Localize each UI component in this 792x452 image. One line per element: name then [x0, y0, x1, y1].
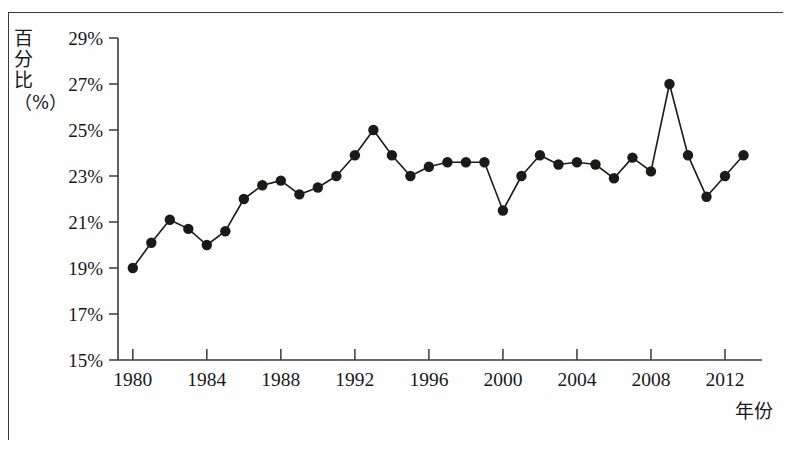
y-tick-label: 23% — [68, 166, 103, 187]
y-tick-label: 19% — [68, 258, 103, 279]
x-tick-label: 2012 — [705, 369, 744, 390]
y-tick-label: 29% — [68, 28, 103, 49]
data-point-marker — [313, 182, 323, 192]
x-axis-tick-labels: 198019841988199219962000200420082012 — [113, 369, 744, 390]
data-point-marker — [535, 150, 545, 160]
data-point-marker — [165, 215, 175, 225]
y-tick-label: 17% — [68, 304, 103, 325]
y-tick-label: 21% — [68, 212, 103, 233]
data-point-marker — [331, 171, 341, 181]
data-series-group — [128, 79, 749, 273]
data-point-marker — [239, 194, 249, 204]
data-point-marker — [387, 150, 397, 160]
x-axis-title: 年份 — [735, 396, 773, 423]
data-point-marker — [128, 263, 138, 273]
x-tick-label: 2008 — [631, 369, 670, 390]
data-point-marker — [442, 157, 452, 167]
data-point-marker — [146, 238, 156, 248]
data-point-marker — [701, 192, 711, 202]
data-point-marker — [405, 171, 415, 181]
x-tick-label: 1992 — [335, 369, 374, 390]
data-point-marker — [350, 150, 360, 160]
data-point-marker — [590, 159, 600, 169]
line-chart-canvas: 29%27%25%23%21%19%17%15% 198019841988199… — [0, 0, 792, 452]
data-point-marker — [664, 79, 674, 89]
chart-figure: 百 分 比 （%） 29%27%25%23%21%19%17%15% 19801… — [0, 0, 792, 452]
data-point-marker — [461, 157, 471, 167]
y-axis-tick-marks — [109, 38, 118, 360]
data-point-marker — [627, 152, 637, 162]
data-point-marker — [553, 159, 563, 169]
data-point-marker — [516, 171, 526, 181]
y-axis-group: 29%27%25%23%21%19%17%15% — [68, 28, 118, 371]
data-point-marker — [646, 166, 656, 176]
data-point-marker — [220, 226, 230, 236]
data-point-marker — [720, 171, 730, 181]
data-point-marker — [683, 150, 693, 160]
data-point-marker — [183, 224, 193, 234]
data-point-marker — [498, 205, 508, 215]
y-axis-tick-labels: 29%27%25%23%21%19%17%15% — [68, 28, 103, 371]
x-axis-tick-marks — [133, 349, 725, 360]
data-point-marker — [276, 175, 286, 185]
y-tick-label: 15% — [68, 350, 103, 371]
x-tick-label: 1980 — [113, 369, 152, 390]
x-tick-label: 1996 — [409, 369, 448, 390]
x-tick-label: 2004 — [557, 369, 596, 390]
data-point-marker — [479, 157, 489, 167]
data-point-marker — [609, 173, 619, 183]
data-point-marker — [572, 157, 582, 167]
x-tick-label: 1988 — [261, 369, 300, 390]
x-tick-label: 1984 — [187, 369, 226, 390]
data-point-marker — [738, 150, 748, 160]
data-point-marker — [202, 240, 212, 250]
y-tick-label: 25% — [68, 120, 103, 141]
x-axis-group: 198019841988199219962000200420082012 — [113, 349, 762, 390]
data-point-marker — [424, 162, 434, 172]
data-point-marker — [257, 180, 267, 190]
data-point-marker — [368, 125, 378, 135]
series-data-point-markers — [128, 79, 749, 273]
x-tick-label: 2000 — [483, 369, 522, 390]
y-tick-label: 27% — [68, 74, 103, 95]
data-point-marker — [294, 189, 304, 199]
